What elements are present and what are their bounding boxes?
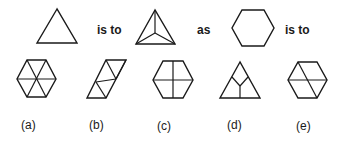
triangle-figure (37, 9, 77, 43)
analogy-diagram: is to as is to (a) (b) (c) (d) (e) (0, 0, 344, 146)
option-a-label[interactable]: (a) (21, 119, 36, 131)
connector-is-to-2: is to (285, 24, 310, 36)
option-a-figure[interactable] (17, 60, 56, 97)
option-c-figure[interactable] (153, 61, 193, 98)
option-c-label[interactable]: (c) (157, 120, 171, 132)
option-e-label[interactable]: (e) (296, 120, 311, 132)
option-b-label[interactable]: (b) (89, 119, 104, 131)
connector-is-to-1: is to (97, 24, 122, 36)
option-d-figure[interactable] (220, 62, 260, 98)
option-e-figure[interactable] (288, 62, 327, 98)
connector-as: as (197, 24, 210, 36)
hexagon-figure (232, 10, 274, 46)
option-b-figure[interactable] (87, 60, 126, 98)
triangle-divided-figure (136, 10, 175, 44)
option-d-label[interactable]: (d) (227, 119, 242, 131)
